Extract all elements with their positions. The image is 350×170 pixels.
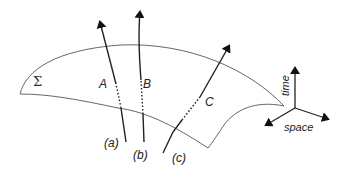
spacetime-diagram: Σ A (a) B (b) C (c) time space [0, 0, 350, 170]
space-axis-label: space [284, 121, 313, 133]
time-axis-label: time [279, 75, 291, 96]
spacetime-axes [266, 68, 328, 125]
surface-label-sigma: Σ [33, 74, 42, 89]
worldline-c [163, 46, 229, 153]
worldline-label-a: (a) [104, 136, 119, 150]
space-axis-arrow-right [295, 108, 328, 119]
hypersurface-sigma [20, 45, 284, 148]
event-label-a: A [98, 77, 107, 91]
worldline-label-c: (c) [172, 151, 186, 165]
event-label-c: C [205, 95, 214, 109]
event-label-b: B [143, 77, 151, 91]
worldline-label-b: (b) [133, 148, 148, 162]
